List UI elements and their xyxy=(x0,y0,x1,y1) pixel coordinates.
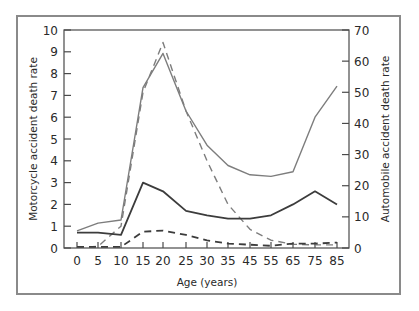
right-y-axis-title: Automobile accident death rate xyxy=(379,56,391,222)
left-tick-label: 5 xyxy=(50,133,58,147)
x-tick-label: 55 xyxy=(263,254,278,268)
right-tick-label: 40 xyxy=(354,117,369,131)
right-tick-label: 60 xyxy=(354,55,369,69)
right-tick-label: 50 xyxy=(354,86,369,100)
right-tick-label: 0 xyxy=(354,242,362,256)
right-tick-label: 70 xyxy=(354,24,369,38)
axes: 0123456789100102030405060700510152025303… xyxy=(43,24,370,269)
series-lines xyxy=(77,43,337,248)
x-tick-label: 0 xyxy=(73,254,81,268)
x-tick-label: 30 xyxy=(199,254,214,268)
x-tick-label: 25 xyxy=(178,254,193,268)
left-tick-label: 9 xyxy=(50,45,58,59)
x-tick-label: 20 xyxy=(155,254,170,268)
right-tick-label: 20 xyxy=(354,179,369,193)
x-tick-label: 65 xyxy=(285,254,300,268)
left-tick-label: 2 xyxy=(50,198,58,212)
series-line-0 xyxy=(77,53,337,231)
left-tick-label: 7 xyxy=(50,89,58,103)
left-y-axis-title: Motorcycle accident death rate xyxy=(27,57,39,221)
x-tick-label: 15 xyxy=(135,254,150,268)
x-tick-label: 45 xyxy=(242,254,257,268)
left-tick-label: 1 xyxy=(50,220,58,234)
left-tick-label: 8 xyxy=(50,67,58,81)
x-axis-title: Age (years) xyxy=(177,276,238,288)
left-tick-label: 6 xyxy=(50,111,58,125)
left-tick-label: 10 xyxy=(43,24,58,38)
x-tick-label: 35 xyxy=(220,254,235,268)
x-tick-label: 5 xyxy=(94,254,102,268)
left-tick-label: 0 xyxy=(50,242,58,256)
left-tick-label: 3 xyxy=(50,176,58,190)
x-tick-label: 75 xyxy=(307,254,322,268)
right-tick-label: 30 xyxy=(354,148,369,162)
x-tick-label: 85 xyxy=(329,254,344,268)
right-tick-label: 10 xyxy=(354,210,369,224)
left-tick-label: 4 xyxy=(50,154,58,168)
line-chart: 0123456789100102030405060700510152025303… xyxy=(0,0,419,311)
series-line-2 xyxy=(77,183,337,235)
x-tick-label: 10 xyxy=(113,254,128,268)
